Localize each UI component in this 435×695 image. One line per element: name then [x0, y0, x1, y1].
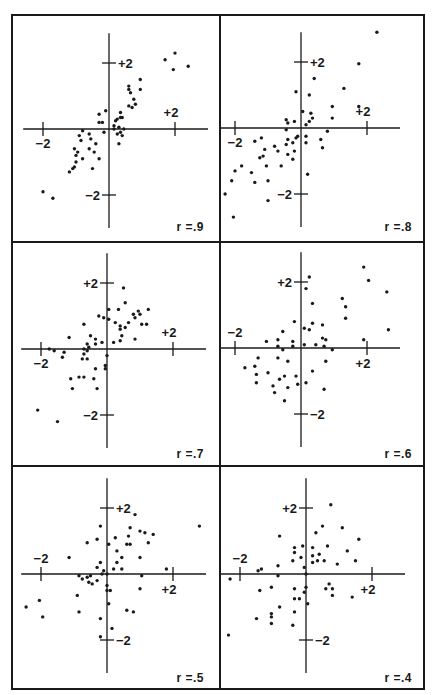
correlation-label: r =.7 [176, 447, 204, 461]
data-point [74, 154, 77, 157]
data-point [294, 374, 297, 377]
data-point [51, 197, 54, 200]
data-point [286, 386, 289, 389]
y-tick-label-pos2: +2 [282, 501, 297, 516]
data-point [104, 367, 107, 370]
data-point [133, 337, 136, 340]
data-point [299, 556, 302, 559]
data-point [357, 105, 360, 108]
data-point [48, 347, 51, 350]
x-tick-label-pos2: +2 [164, 105, 179, 120]
data-point [99, 524, 102, 527]
data-point [129, 91, 132, 94]
data-point [260, 136, 263, 139]
data-point [311, 369, 314, 372]
data-point [133, 316, 136, 319]
data-point [119, 131, 122, 134]
data-point [276, 356, 279, 359]
x-tick-label-neg2: −2 [36, 136, 51, 151]
data-point [82, 323, 85, 326]
data-point [326, 544, 329, 547]
data-point [120, 567, 123, 570]
data-point [285, 118, 288, 121]
data-point [104, 364, 107, 367]
data-point [130, 106, 133, 109]
data-point [306, 173, 309, 176]
data-point [91, 167, 94, 170]
data-point [304, 141, 307, 144]
data-point [293, 546, 296, 549]
data-point [105, 584, 108, 587]
data-point [81, 129, 84, 132]
data-point [304, 123, 307, 126]
data-point [278, 605, 281, 608]
data-point [137, 309, 140, 312]
data-point [255, 381, 258, 384]
scatter-plot: −2+2+2−2 [221, 243, 426, 465]
data-point [165, 567, 168, 570]
data-point [122, 127, 125, 130]
data-point [331, 587, 334, 590]
data-point [143, 531, 146, 534]
data-point [319, 138, 322, 141]
data-point [303, 591, 306, 594]
data-point [303, 566, 306, 569]
data-point [293, 587, 296, 590]
correlation-label: r =.5 [176, 671, 204, 685]
data-point [86, 541, 89, 544]
data-point [265, 340, 268, 343]
data-point [276, 149, 279, 152]
data-point [71, 387, 74, 390]
data-point [346, 549, 349, 552]
data-point [132, 610, 135, 613]
data-point [124, 301, 127, 304]
scatter-plot: −2+2+2−2 [13, 243, 218, 465]
data-point [95, 387, 98, 390]
data-point [273, 391, 276, 394]
data-point [253, 365, 256, 368]
data-point [94, 342, 97, 345]
data-point [152, 533, 155, 536]
data-point [114, 321, 117, 324]
data-point [227, 633, 230, 636]
data-point [67, 336, 70, 339]
data-point [62, 351, 65, 354]
data-point [240, 164, 243, 167]
data-point [270, 612, 273, 615]
data-point [294, 90, 297, 93]
data-point [97, 113, 100, 116]
data-point [77, 574, 80, 577]
data-point [314, 343, 317, 346]
data-point [24, 605, 27, 608]
data-point [285, 143, 288, 146]
x-tick-label-neg2: −2 [228, 135, 243, 150]
data-point [324, 587, 327, 590]
data-point [255, 373, 258, 376]
x-tick-label-pos2: +2 [162, 325, 177, 340]
data-point [304, 572, 307, 575]
data-point [109, 589, 112, 592]
data-point [125, 609, 128, 612]
data-point [120, 334, 123, 337]
x-tick-label-pos2: +2 [162, 582, 177, 597]
data-point [291, 141, 294, 144]
x-tick-label-neg2: −2 [34, 356, 49, 371]
data-point [321, 336, 324, 339]
data-point [107, 602, 110, 605]
x-tick-label-pos2: +2 [361, 582, 376, 597]
data-point [140, 323, 143, 326]
data-point [81, 157, 84, 160]
data-point [301, 544, 304, 547]
data-point [255, 617, 258, 620]
data-point [117, 142, 120, 145]
data-point [95, 538, 98, 541]
data-point [122, 286, 125, 289]
data-point [172, 68, 175, 71]
data-point [273, 145, 276, 148]
data-point [138, 529, 141, 532]
data-point [92, 377, 95, 380]
data-point [86, 349, 89, 352]
y-tick-label-neg2: −2 [315, 633, 330, 648]
data-point [102, 316, 105, 319]
data-point [198, 524, 201, 527]
